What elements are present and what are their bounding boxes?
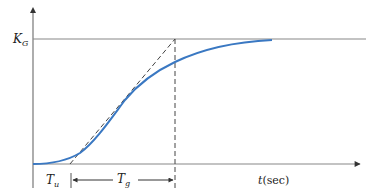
tu-label: Tu — [46, 173, 59, 189]
step-response-diagram: KG Tu Tg t(sec) — [0, 0, 382, 196]
response-curve — [33, 40, 272, 164]
inflection-tangent-line — [70, 39, 175, 164]
tg-label: Tg — [117, 172, 130, 188]
kg-label: KG — [12, 32, 29, 48]
x-axis-label: t(sec) — [258, 174, 289, 187]
